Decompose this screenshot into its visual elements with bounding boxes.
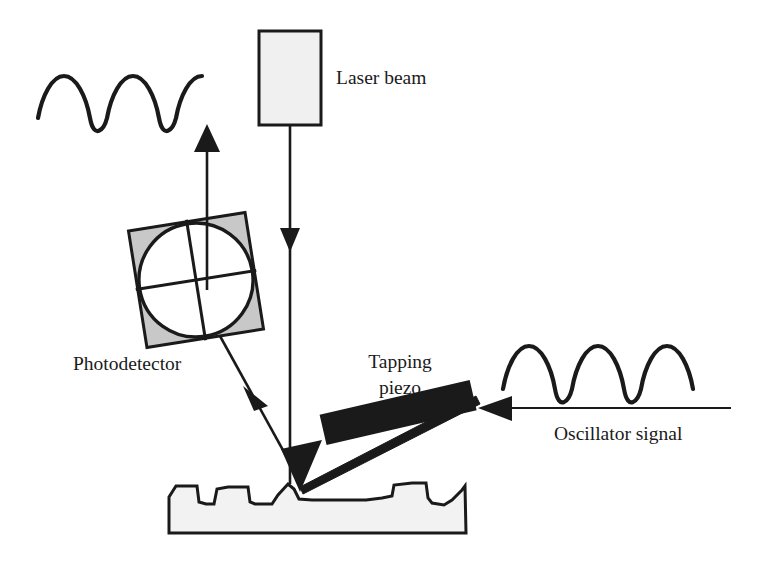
sample-surface (169, 483, 466, 533)
oscillator-signal-label: Oscillator signal (554, 423, 683, 444)
oscillator-signal-arrowhead (478, 396, 512, 421)
afm-diagram: Laser beam Photodetector Tapping piezo O… (0, 0, 758, 574)
oscillator-drive-waveform (503, 346, 693, 402)
photodetector-label: Photodetector (73, 353, 182, 374)
reflected-beam-arrowhead (243, 386, 268, 411)
diagram-canvas: Laser beam Photodetector Tapping piezo O… (0, 0, 758, 574)
laser-source-box (259, 31, 321, 125)
photodetector (126, 210, 266, 350)
tapping-piezo-label-line1: Tapping (368, 351, 432, 372)
laser-beam-label: Laser beam (336, 67, 426, 88)
detector-output-arrowhead (194, 124, 220, 152)
detector-output-waveform (38, 76, 202, 131)
incident-beam-arrowhead (280, 228, 300, 252)
